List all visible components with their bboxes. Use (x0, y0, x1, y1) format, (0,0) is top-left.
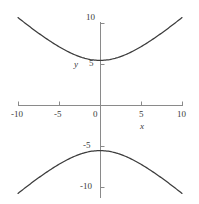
hyperbola-figure: 10 5 -5 -10 -10 -5 0 5 10 y x (0, 0, 199, 204)
x-tick-label-neg5: -5 (54, 110, 62, 119)
y-axis-label: y (74, 60, 78, 69)
x-tick-label-neg10: -10 (11, 110, 23, 119)
x-tick-label-10: 10 (177, 110, 186, 119)
x-axis-label: x (140, 122, 144, 131)
y-tick-label-neg10: -10 (80, 182, 92, 191)
x-tick-label-0: 0 (93, 110, 98, 119)
y-tick-label-5: 5 (89, 59, 94, 68)
y-tick-label-neg5: -5 (83, 141, 91, 150)
plot-area (0, 0, 199, 204)
x-tick-label-5: 5 (139, 110, 144, 119)
y-tick-label-10: 10 (86, 13, 95, 22)
